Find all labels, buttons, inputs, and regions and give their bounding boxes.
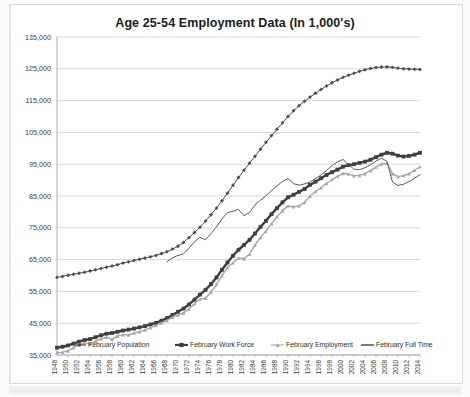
x-axis-tick-label: 2004 xyxy=(359,360,366,375)
x-axis-tick-label: 1970 xyxy=(172,360,179,375)
series-marker-1 xyxy=(275,206,279,210)
series-marker-1 xyxy=(226,261,230,265)
series-marker-0 xyxy=(94,268,97,271)
chart-container: Age 25-54 Employment Data (In 1,000's) 3… xyxy=(9,4,461,382)
series-marker-0 xyxy=(110,264,113,267)
series-marker-0 xyxy=(127,260,130,263)
series-marker-0 xyxy=(77,272,80,275)
series-marker-1 xyxy=(187,303,191,307)
x-axis-tick-label: 1954 xyxy=(84,360,91,375)
x-axis-tick-label: 1980 xyxy=(227,360,234,375)
series-marker-1 xyxy=(149,323,153,327)
series-marker-1 xyxy=(292,193,296,197)
series-marker-0 xyxy=(116,263,119,266)
x-axis-tick-label: 1952 xyxy=(73,360,80,375)
legend-item-3[interactable]: February Full Time xyxy=(361,341,433,349)
y-axis-tick-label: 105,000 xyxy=(25,128,51,137)
series-marker-1 xyxy=(396,154,400,158)
series-marker-1 xyxy=(270,212,274,216)
series-marker-1 xyxy=(209,282,213,286)
series-marker-1 xyxy=(369,158,373,162)
series-marker-1 xyxy=(286,195,290,199)
series-marker-1 xyxy=(176,310,180,314)
y-axis-tick-label: 85,000 xyxy=(29,192,51,201)
x-axis-tick-label: 1976 xyxy=(205,360,212,375)
series-marker-1 xyxy=(237,248,241,252)
x-axis-tick-label: 2006 xyxy=(370,360,377,375)
series-marker-1 xyxy=(138,325,142,329)
y-axis-tick-label: 75,000 xyxy=(29,223,51,232)
series-marker-0 xyxy=(341,76,344,79)
x-axis-tick-label: 1978 xyxy=(216,360,223,375)
x-axis-tick-label: 1994 xyxy=(304,360,311,375)
series-marker-0 xyxy=(55,276,58,279)
series-marker-0 xyxy=(347,73,350,76)
series-marker-0 xyxy=(105,266,108,269)
series-marker-1 xyxy=(121,329,125,333)
x-axis-tick-label: 1992 xyxy=(293,360,300,375)
series-marker-1 xyxy=(143,324,147,328)
series-marker-0 xyxy=(88,269,91,272)
series-marker-0 xyxy=(385,65,388,68)
series-marker-0 xyxy=(352,72,355,75)
series-marker-0 xyxy=(149,255,152,258)
series-marker-0 xyxy=(413,68,416,71)
series-marker-1 xyxy=(61,345,65,349)
series-marker-1 xyxy=(297,190,301,194)
series-marker-1 xyxy=(341,165,345,169)
screenshot-page: Age 25-54 Employment Data (In 1,000's) 3… xyxy=(0,0,470,397)
x-axis-tick-label: 1984 xyxy=(249,360,256,375)
series-marker-1 xyxy=(264,219,268,223)
x-axis-tick-label: 1962 xyxy=(128,360,135,375)
series-marker-1 xyxy=(253,232,257,236)
series-marker-1 xyxy=(231,254,235,258)
x-axis-tick-label: 1990 xyxy=(282,360,289,375)
series-marker-1 xyxy=(385,151,389,155)
legend-label-3: February Full Time xyxy=(376,341,433,349)
x-axis-tick-label: 2010 xyxy=(392,360,399,375)
chart-plot: 35,00045,00055,00065,00075,00085,00095,0… xyxy=(9,4,461,382)
series-marker-1 xyxy=(55,346,59,350)
y-axis-tick-label: 115,000 xyxy=(26,96,51,105)
series-marker-1 xyxy=(418,151,422,155)
series-marker-1 xyxy=(358,161,362,165)
series-marker-1 xyxy=(413,153,417,157)
x-axis-tick-label: 1998 xyxy=(326,360,333,375)
series-marker-0 xyxy=(418,68,421,71)
series-marker-0 xyxy=(154,254,157,257)
x-axis-tick-label: 1950 xyxy=(62,360,69,375)
series-marker-0 xyxy=(369,67,372,70)
series-marker-0 xyxy=(171,247,174,250)
series-marker-0 xyxy=(407,67,410,70)
x-axis-tick-label: 2008 xyxy=(381,360,388,375)
series-marker-1 xyxy=(77,340,81,344)
x-axis-tick-label: 1972 xyxy=(183,360,190,375)
series-marker-0 xyxy=(165,250,168,253)
legend-item-1[interactable]: February Work Force xyxy=(175,341,254,349)
y-axis-tick-label: 55,000 xyxy=(29,287,51,296)
x-axis-tick-label: 1988 xyxy=(271,360,278,375)
series-marker-1 xyxy=(259,225,263,229)
series-marker-1 xyxy=(402,155,406,159)
y-axis-tick-label: 135,000 xyxy=(25,33,51,42)
series-marker-1 xyxy=(391,152,395,156)
series-marker-0 xyxy=(72,273,75,276)
series-marker-0 xyxy=(138,258,141,261)
legend-item-2[interactable]: February Employment xyxy=(271,341,353,349)
series-marker-1 xyxy=(248,238,252,242)
series-marker-1 xyxy=(193,298,197,302)
x-axis-tick-label: 1958 xyxy=(106,360,113,375)
series-marker-1 xyxy=(352,162,356,166)
series-marker-1 xyxy=(204,288,208,292)
series-marker-1 xyxy=(242,243,246,247)
scan-bottom-artifact xyxy=(9,386,461,395)
x-axis-tick-label: 2014 xyxy=(414,360,421,375)
series-marker-1 xyxy=(330,170,334,174)
series-marker-1 xyxy=(407,154,411,158)
series-marker-0 xyxy=(358,70,361,73)
series-marker-1 xyxy=(105,332,109,336)
legend-label-2: February Employment xyxy=(286,341,353,349)
series-marker-1 xyxy=(215,276,219,280)
x-axis-tick-label: 1968 xyxy=(161,360,168,375)
series-marker-1 xyxy=(319,176,323,180)
